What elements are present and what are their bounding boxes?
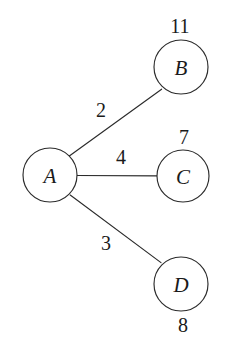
edge-weight-group: 2 4 3 xyxy=(96,99,126,254)
node-d-weight-label: 8 xyxy=(178,314,188,336)
node-b-weight-label: 11 xyxy=(170,15,189,37)
node-b-label: B xyxy=(175,56,188,80)
graph-canvas: A B 11 C 7 D 8 2 4 3 xyxy=(0,0,228,352)
node-c-weight-label: 7 xyxy=(179,126,189,148)
node-a[interactable]: A xyxy=(23,148,77,202)
node-b[interactable]: B 11 xyxy=(154,15,208,94)
edge-a-c-weight-label: 4 xyxy=(116,146,126,168)
edge-a-d xyxy=(70,195,161,263)
node-d-label: D xyxy=(172,273,188,297)
weighted-graph-figure: A B 11 C 7 D 8 2 4 3 xyxy=(0,0,228,352)
node-a-label: A xyxy=(42,164,57,188)
edge-group xyxy=(69,89,161,262)
node-d[interactable]: D 8 xyxy=(154,257,208,336)
node-c-label: C xyxy=(176,165,191,189)
edge-a-d-weight-label: 3 xyxy=(101,232,111,254)
edge-a-b-weight-label: 2 xyxy=(96,99,106,121)
node-c[interactable]: C 7 xyxy=(157,126,209,202)
